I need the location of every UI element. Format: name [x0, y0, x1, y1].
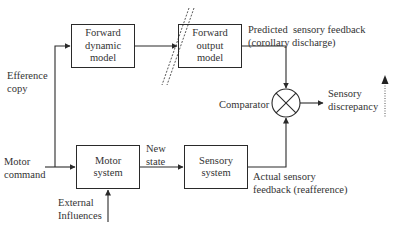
sensory-discrepancy-label: Sensory discrepancy: [328, 88, 378, 113]
forward-output-model-block: Forward output model: [178, 24, 242, 68]
label-line: (corollary discharge): [248, 37, 366, 50]
comparator-label: Comparator: [219, 99, 269, 112]
efference-copy-arrow: [55, 46, 70, 167]
actual-feedback-arrow: [248, 118, 286, 167]
motor-command-label: Motor command: [4, 156, 45, 181]
new-state-label: New state: [146, 143, 166, 168]
block-label: Sensory: [199, 155, 233, 168]
label-line: discrepancy: [328, 101, 378, 114]
sensory-system-block: Sensory system: [184, 145, 248, 189]
efference-copy-label: Efference copy: [7, 70, 48, 95]
block-label: Motor: [95, 155, 121, 168]
label-line: command: [4, 169, 45, 182]
block-label: Forward: [85, 27, 121, 40]
block-label: model: [90, 52, 116, 65]
actual-feedback-label: Actual sensory feedback (reafference): [253, 171, 348, 196]
external-influences-label: External Influences: [58, 197, 102, 222]
dotted-up-arrow: [382, 75, 389, 118]
label-line: Actual sensory: [253, 171, 348, 184]
block-label: Forward: [192, 27, 228, 40]
label-line: feedback (reafference): [253, 184, 348, 197]
label-line: Efference: [7, 70, 48, 83]
forward-dynamic-model-block: Forward dynamic model: [71, 24, 135, 68]
block-label: dynamic: [85, 40, 121, 53]
predicted-feedback-arrow: [242, 46, 286, 88]
label-line: Sensory: [328, 88, 378, 101]
block-label: system: [201, 167, 230, 180]
label-line: New: [146, 143, 166, 156]
block-label: model: [197, 52, 223, 65]
label-line: Predicted sensory feedback: [248, 24, 366, 37]
motor-system-block: Motor system: [76, 145, 140, 189]
label-line: state: [146, 156, 166, 169]
label-line: Motor: [4, 156, 45, 169]
predicted-feedback-label: Predicted sensory feedback (corollary di…: [248, 24, 366, 49]
block-label: system: [93, 167, 122, 180]
comparator-icon: [272, 89, 300, 117]
block-label: output: [197, 40, 224, 53]
label-line: External: [58, 197, 102, 210]
label-line: copy: [7, 83, 48, 96]
label-line: Influences: [58, 210, 102, 223]
